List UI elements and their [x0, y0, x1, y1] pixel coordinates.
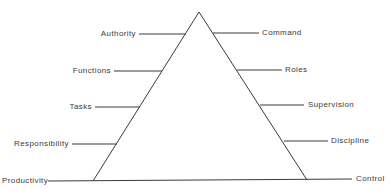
label-productivity: Productivity [2, 176, 48, 186]
label-control: Control [356, 174, 385, 184]
label-responsibility: Responsibility [14, 139, 69, 149]
pyramid-diagram [0, 0, 390, 192]
label-tasks: Tasks [70, 102, 92, 112]
label-command: Command [262, 28, 302, 38]
label-authority: Authority [101, 29, 136, 39]
label-roles: Roles [285, 65, 307, 75]
label-supervision: Supervision [308, 100, 354, 110]
label-discipline: Discipline [331, 136, 369, 146]
label-functions: Functions [73, 66, 111, 76]
